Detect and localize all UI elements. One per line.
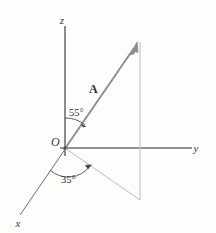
azimuth-angle-label: 35° (61, 174, 76, 185)
y-axis-label: y (193, 142, 199, 154)
z-axis-label: z (59, 14, 65, 26)
vector-a-shaft (64, 48, 134, 150)
vector-diagram-canvas: z y x O A 55° 35° (0, 0, 216, 233)
vector-a-arrowhead (130, 42, 138, 55)
origin-label: O (51, 135, 60, 149)
azimuth-angle-arrowhead (85, 165, 92, 170)
origin-point (63, 146, 66, 149)
x-axis-label: x (15, 217, 21, 229)
xy-projection-line (65, 148, 140, 200)
polar-angle-label: 55° (69, 107, 84, 118)
vector-a-label: A (89, 82, 98, 96)
vector-diagram-figure: z y x O A 55° 35° (0, 0, 216, 233)
